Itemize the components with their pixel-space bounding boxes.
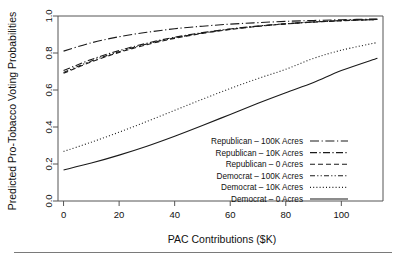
x-axis-title: PAC Contributions ($K) — [168, 233, 276, 245]
legend-label-3: Democrat – 100K Acres — [217, 172, 303, 181]
legend-label-1: Republican – 10K Acres — [216, 149, 303, 158]
legend-label-0: Republican – 100K Acres — [211, 137, 303, 146]
y-axis-title: Predicted Pro-Tobacco Voting Probabiliti… — [6, 12, 18, 210]
y-tick-label: 0.6 — [43, 83, 54, 96]
x-tick-label: 100 — [333, 209, 349, 220]
chart-background — [0, 0, 406, 262]
y-tick-label: 0.2 — [43, 157, 54, 170]
x-tick-label: 60 — [225, 209, 236, 220]
legend-label-4: Democrat – 10K Acres — [221, 183, 303, 192]
chart-figure: Predicted Pro-Tobacco Voting Probabiliti… — [0, 0, 406, 262]
x-tick-label: 80 — [280, 209, 291, 220]
x-axis-title-text: PAC Contributions ($K) — [168, 233, 276, 245]
legend-label-2: Republican – 0 Acres — [226, 160, 303, 169]
y-tick-label: 0.8 — [43, 46, 54, 59]
y-tick-label: 0.4 — [43, 120, 54, 133]
x-tick-label: 0 — [61, 209, 66, 220]
footer-divider — [14, 252, 392, 253]
predicted-probabilities-line-chart: Predicted Pro-Tobacco Voting Probabiliti… — [0, 0, 406, 262]
y-tick-label: 1.0 — [43, 9, 54, 22]
legend-label-5: Democrat – 0 Acres — [231, 195, 303, 204]
y-axis-title-text: Predicted Pro-Tobacco Voting Probabiliti… — [6, 12, 18, 210]
x-tick-label: 20 — [114, 209, 125, 220]
y-tick-label: 0.0 — [43, 194, 54, 207]
x-tick-label: 40 — [169, 209, 180, 220]
